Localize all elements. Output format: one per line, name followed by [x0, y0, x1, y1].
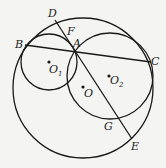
label-o1: O1 — [49, 63, 63, 78]
geometry-diagram: D F B A C G E O O1 O2 — [0, 0, 166, 168]
label-o: O — [84, 87, 93, 100]
label-o2-sub: 2 — [118, 81, 124, 89]
label-e: E — [130, 140, 139, 153]
label-c: C — [151, 55, 160, 68]
label-o1-main: O — [49, 63, 58, 76]
segment-bc — [25, 45, 151, 62]
label-a: A — [72, 37, 81, 50]
label-o1-sub: 1 — [58, 70, 62, 78]
label-d: D — [47, 7, 57, 20]
diagram-svg: D F B A C G E O O1 O2 — [0, 0, 166, 168]
label-b: B — [14, 38, 23, 51]
label-o2: O2 — [110, 74, 124, 89]
label-o2-main: O — [110, 74, 119, 87]
label-g: G — [104, 120, 113, 133]
